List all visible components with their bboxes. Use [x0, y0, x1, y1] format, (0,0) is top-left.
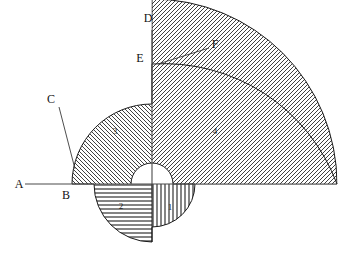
- spiral-quadrant-diagram: A B C D E F 1 2 3 4: [0, 0, 348, 256]
- vertex-label-a: A: [15, 177, 24, 191]
- figure-container: A B C D E F 1 2 3 4: [0, 0, 348, 256]
- vertex-label-f: F: [212, 37, 219, 51]
- region-2-shape: [94, 184, 152, 242]
- vertex-label-c: C: [47, 92, 55, 106]
- region-label-4: 4: [213, 126, 218, 136]
- leader-line-c: [59, 107, 75, 169]
- vertex-label-d: D: [144, 11, 153, 25]
- vertex-label-e: E: [136, 51, 143, 65]
- region-label-3: 3: [113, 126, 118, 136]
- region-label-2: 2: [119, 201, 124, 211]
- region-label-1: 1: [168, 202, 173, 212]
- vertex-label-b: B: [62, 188, 70, 202]
- region-1-shape: [152, 184, 195, 227]
